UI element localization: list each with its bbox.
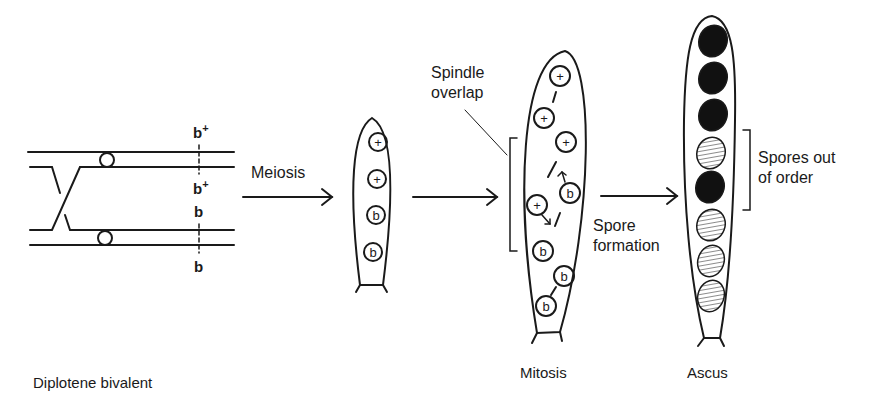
svg-text:b: b	[372, 208, 379, 223]
spindle-overlap-bracket	[465, 110, 517, 251]
mitosis-label: Mitosis	[520, 363, 567, 383]
svg-text:b: b	[369, 245, 376, 260]
svg-text:b: b	[539, 244, 546, 259]
ascus-spores	[691, 21, 731, 315]
centromere-icon	[98, 231, 112, 245]
centromere-icon	[100, 153, 114, 167]
mitosis-arrow	[413, 189, 497, 205]
mitosis-ascus	[524, 51, 586, 343]
svg-text:b: b	[566, 186, 573, 201]
svg-text:+: +	[556, 69, 564, 84]
svg-text:+: +	[562, 135, 570, 150]
svg-text:+: +	[540, 111, 548, 126]
svg-text:b: b	[542, 299, 549, 314]
spores-out-of-order-label: Spores out of order	[758, 148, 835, 188]
spore-formation-label: Spore formation	[593, 216, 660, 256]
gene-label-b-bottom: b	[194, 258, 203, 275]
gene-label-b-plus: b+	[193, 178, 209, 197]
spore-formation-arrow	[601, 188, 677, 204]
svg-text:+: +	[374, 135, 382, 150]
out-of-order-bracket	[743, 130, 750, 210]
gene-label-b: b	[194, 203, 203, 220]
meiosis-ascus	[353, 118, 390, 292]
svg-text:b: b	[560, 269, 567, 284]
meiosis-arrow	[243, 189, 332, 205]
ascus-label: Ascus	[687, 363, 728, 383]
spindle-overlap-label: Spindle overlap	[431, 63, 484, 103]
meiosis-label: Meiosis	[251, 163, 305, 183]
diplotene-bivalent-label: Diplotene bivalent	[33, 373, 152, 393]
svg-text:+: +	[373, 172, 381, 187]
bivalent-chromatids	[28, 145, 234, 253]
gene-label-b-plus-top: b+	[193, 122, 209, 141]
diagram-canvas: + + b b + + + b + b b b	[0, 0, 881, 406]
svg-text:+: +	[533, 198, 541, 213]
